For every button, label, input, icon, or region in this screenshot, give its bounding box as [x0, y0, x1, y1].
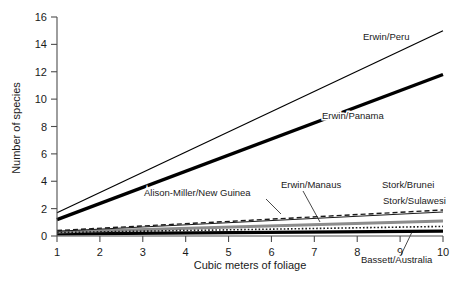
y-tick-label: 2	[41, 203, 47, 215]
x-tick-label: 4	[183, 246, 189, 258]
y-axis-title: Number of species	[10, 82, 22, 174]
x-tick-label: 5	[225, 246, 231, 258]
series-leader-line	[266, 199, 281, 214]
x-tick-label: 1	[54, 246, 60, 258]
x-tick-label: 7	[311, 246, 317, 258]
x-tick-label: 2	[97, 246, 103, 258]
series-label: Erwin/Manaus	[281, 179, 341, 190]
series-label: Alison-Miller/New Guinea	[144, 187, 251, 198]
series-label: Stork/Sulawesi	[383, 195, 446, 206]
y-tick-label: 12	[35, 66, 47, 78]
y-tick-label: 16	[35, 11, 47, 23]
y-tick-label: 4	[41, 175, 47, 187]
y-tick-label: 14	[35, 38, 47, 50]
species-foliage-line-chart: 0246810121416 12345678910 Erwin/PeruErwi…	[0, 0, 461, 286]
y-tick-label: 8	[41, 121, 47, 133]
y-tick-label: 6	[41, 148, 47, 160]
series-label: Stork/Brunei	[382, 179, 434, 190]
series-label: Erwin/Peru	[363, 31, 409, 42]
series-label: Bassett/Australia	[361, 254, 433, 265]
series-label: Erwin/Panama	[322, 110, 384, 121]
y-axis-ticks: 0246810121416	[35, 11, 57, 242]
x-tick-label: 3	[140, 246, 146, 258]
x-axis-title: Cubic meters of foliage	[194, 259, 307, 271]
x-tick-label: 10	[437, 246, 449, 258]
series-labels-group: Erwin/PeruErwin/PeruErwin/PanamaErwin/Pa…	[144, 31, 446, 265]
y-tick-label: 10	[35, 93, 47, 105]
chart-container: 0246810121416 12345678910 Erwin/PeruErwi…	[0, 0, 461, 286]
x-tick-label: 6	[268, 246, 274, 258]
x-tick-label: 8	[354, 246, 360, 258]
y-tick-label: 0	[41, 230, 47, 242]
